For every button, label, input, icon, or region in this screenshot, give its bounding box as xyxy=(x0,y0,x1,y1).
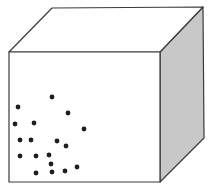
particle-dot xyxy=(34,154,39,159)
particle-dot xyxy=(16,105,21,110)
particle-dot xyxy=(50,170,55,175)
particle-dot xyxy=(50,95,55,100)
cube-diagram xyxy=(0,0,214,192)
cube-front-face xyxy=(9,52,160,182)
particle-dot xyxy=(64,144,69,149)
particle-dot xyxy=(29,138,34,143)
particle-dot xyxy=(55,139,60,144)
particle-dot xyxy=(18,154,23,159)
particle-dot xyxy=(13,122,18,127)
particle-dot xyxy=(49,162,54,167)
particle-dot xyxy=(32,121,37,126)
particle-dot xyxy=(47,153,52,158)
particle-dot xyxy=(63,169,68,174)
particle-dot xyxy=(75,165,80,170)
cube-drawing xyxy=(0,0,214,192)
particle-dot xyxy=(34,171,39,176)
particle-dot xyxy=(82,127,87,132)
particle-dot xyxy=(18,138,23,143)
particle-dot xyxy=(66,111,71,116)
